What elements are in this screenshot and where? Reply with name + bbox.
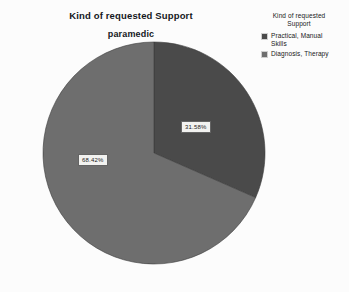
- legend-label-practical-manual-skills: Practical, Manual Skills: [271, 32, 339, 48]
- pie-chart-figure: Kind of requested Support paramedic 31.5…: [0, 0, 349, 292]
- data-label-diagnosis-therapy: 68.42%: [78, 154, 108, 166]
- pie-svg: [42, 41, 266, 265]
- chart-subtitle: paramedic: [0, 29, 262, 40]
- legend-label-diagnosis-therapy: Diagnosis, Therapy: [271, 50, 329, 58]
- legend-item-diagnosis-therapy[interactable]: Diagnosis, Therapy: [261, 50, 347, 58]
- chart-legend: Kind of requested Support Practical, Man…: [261, 12, 347, 60]
- legend-swatch-icon-diagnosis-therapy: [261, 51, 268, 58]
- chart-title: Kind of requested Support: [0, 10, 262, 21]
- data-label-practical-manual-skills: 31.58%: [181, 121, 211, 133]
- pie-plot-area: [42, 41, 266, 265]
- legend-swatch-icon-practical-manual-skills: [261, 33, 268, 40]
- legend-title: Kind of requested Support: [261, 12, 337, 28]
- legend-item-practical-manual-skills[interactable]: Practical, Manual Skills: [261, 32, 347, 48]
